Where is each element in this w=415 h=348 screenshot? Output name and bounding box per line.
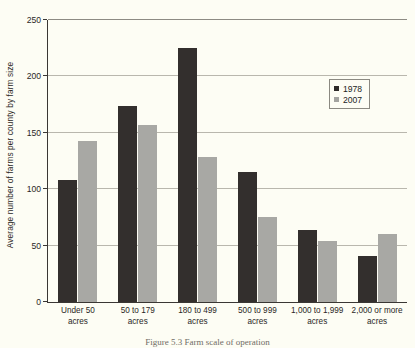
bar-1978 [118,106,137,302]
bar-2007 [378,234,397,302]
bar-1978 [238,172,257,302]
y-tick-label-250: 250 [27,15,41,25]
bar-2007 [198,157,217,303]
y-tick-label-150: 150 [27,128,41,138]
x-axis-line [47,302,407,303]
y-tick-250 [43,19,47,20]
bar-2007 [258,217,277,302]
x-axis-label: 2,000 or moreacres [339,306,415,327]
y-tick-label-200: 200 [27,71,41,81]
bar-group [228,20,288,302]
bar-2007 [138,125,157,302]
bar-group [287,20,347,302]
legend-swatch-icon-2007 [334,97,339,102]
y-tick-label-100: 100 [27,184,41,194]
y-tick-200 [43,75,47,76]
figure-bar-chart: Average number of farms per county by fa… [0,0,415,348]
legend-label-2007: 2007 [343,95,362,105]
bar-group [168,20,228,302]
bar-group [108,20,168,302]
x-axis-category-labels: Under 50acres50 to 179acres180 to 499acr… [48,306,407,336]
bar-1978 [58,180,77,302]
x-axis-label-line: 2,000 or more [339,306,415,317]
legend-item-2007: 2007 [334,94,362,105]
bar-2007 [318,241,337,302]
bars-layer [48,20,407,302]
y-axis-title-text: Average number of farms per county by fa… [5,62,15,248]
y-tick-100 [43,188,47,189]
bar-1978 [178,48,197,302]
bar-1978 [298,230,317,302]
bar-2007 [78,141,97,302]
plot-area: 050100150200250 [47,20,407,303]
figure-caption: Figure 5.3 Farm scale of operation [0,337,415,347]
legend-swatch-icon-1978 [334,86,339,91]
y-tick-150 [43,132,47,133]
bar-group [347,20,407,302]
y-tick-label-50: 50 [31,241,41,251]
legend-item-1978: 1978 [334,83,362,94]
y-axis-title: Average number of farms per county by fa… [0,0,20,310]
y-tick-50 [43,245,47,246]
bar-group [48,20,108,302]
bar-1978 [358,256,377,302]
x-axis-label-line: acres [339,317,415,328]
y-tick-0 [43,301,47,302]
chart-legend: 1978 2007 [329,79,370,109]
legend-label-1978: 1978 [343,84,362,94]
